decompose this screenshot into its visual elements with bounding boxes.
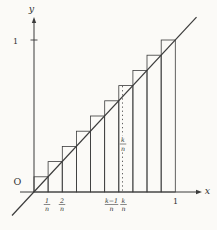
tick-k-minus-1-over-n: k−1n (105, 197, 119, 213)
dashed-line-k-over-n-label-numerator: k (121, 136, 125, 143)
tick-2-over-n-numerator: 2 (59, 197, 64, 204)
x-axis-arrow-icon (196, 190, 202, 194)
x-axis-label: x (205, 185, 211, 196)
y-axis-arrow-icon (32, 17, 36, 23)
riemann-bar-9 (147, 55, 161, 192)
riemann-bar-6 (105, 101, 119, 192)
tick-k-minus-1-over-n-numerator: k−1 (105, 197, 118, 204)
tick-k-over-n-numerator: k (122, 197, 126, 204)
tick-2-over-n: 2n (59, 197, 66, 213)
riemann-sum-figure: yxO111n2nk−1nknkn (0, 0, 217, 230)
riemann-bar-4 (76, 131, 90, 192)
tick-1-over-n-numerator: 1 (45, 197, 49, 204)
dashed-line-k-over-n-label: kn (120, 136, 127, 152)
x-tick-1-label: 1 (173, 197, 178, 206)
tick-k-over-n: kn (120, 197, 127, 213)
origin-label: O (14, 176, 22, 187)
riemann-bar-8 (133, 70, 147, 192)
riemann-bar-2 (48, 162, 62, 192)
riemann-bar-10 (161, 40, 175, 192)
tick-1-over-n-denominator: n (45, 205, 49, 212)
y-axis-label: y (28, 3, 35, 14)
tick-k-minus-1-over-n-denominator: n (109, 205, 113, 212)
figure-canvas: yxO111n2nk−1nknkn (0, 0, 217, 230)
tick-k-over-n-denominator: n (121, 205, 125, 212)
y-tick-1-label: 1 (13, 37, 18, 46)
tick-1-over-n: 1n (44, 197, 51, 213)
tick-2-over-n-denominator: n (60, 205, 64, 212)
dashed-line-k-over-n-label-denominator: n (121, 145, 125, 152)
riemann-bar-5 (91, 116, 105, 192)
